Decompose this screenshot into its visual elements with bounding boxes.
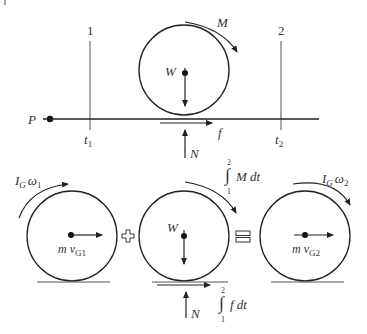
top-panel: 1 2 t1 t2 P W M f N [27, 15, 319, 161]
marker-2-label: 2 [278, 23, 285, 38]
weight-label: W [165, 64, 177, 79]
impulse-momentum-diagram: 1 2 t1 t2 P W M f N m vG1 [0, 0, 367, 334]
moment-impulse-label: 2 ∫ 1 M dt [224, 158, 261, 196]
moment-label: M [216, 15, 229, 30]
equals-symbol [236, 231, 250, 242]
friction-label: f [218, 125, 224, 140]
bottom-panel: m vG1 IGω1 W 2 ∫ 1 M dt [14, 158, 350, 324]
svg-text:1: 1 [221, 315, 225, 324]
time-1-label: t1 [84, 132, 92, 149]
svg-text:M dt: M dt [235, 169, 261, 184]
plus-symbol [122, 230, 134, 242]
wheel-circle [139, 25, 229, 115]
linear-momentum-label-final: m vG2 [292, 242, 320, 258]
angular-momentum-label-initial: IGω1 [14, 173, 42, 190]
angular-momentum-label-final: IGω2 [321, 171, 349, 188]
weight-label-impulse: W [167, 220, 179, 235]
integral-sign: ∫ [224, 165, 231, 186]
linear-momentum-label-initial: m vG1 [58, 242, 86, 258]
marker-1-label: 1 [87, 23, 94, 38]
svg-text:1: 1 [227, 187, 231, 196]
point-p-label: P [27, 112, 36, 127]
integral-sign: ∫ [218, 293, 225, 314]
normal-label-impulse: N [190, 306, 201, 321]
normal-label: N [189, 146, 200, 161]
initial-momentum-diagram: m vG1 IGω1 [14, 173, 117, 282]
friction-impulse-label: 2 ∫ 1 f dt [218, 286, 247, 324]
final-momentum-diagram: m vG2 IGω2 [260, 171, 350, 282]
svg-text:f dt: f dt [230, 297, 247, 312]
time-2-label: t2 [275, 132, 283, 149]
